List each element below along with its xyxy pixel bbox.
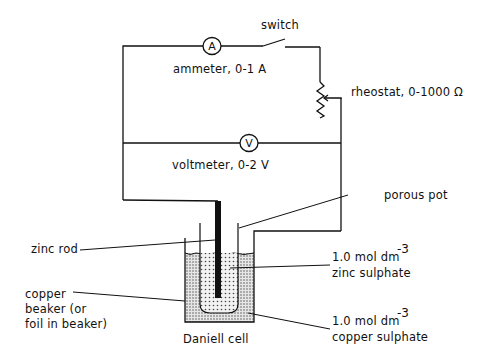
switch-label: switch <box>261 20 299 32</box>
porous-pot-label: porous pot <box>384 190 448 202</box>
copper-sulphate-exponent: -3 <box>397 307 409 319</box>
rheostat-symbol <box>317 82 341 231</box>
copper-lead-wire <box>254 231 341 251</box>
zinc-sulphate-label: zinc sulphate <box>332 268 411 280</box>
ammeter-label: ammeter, 0-1 A <box>173 64 266 76</box>
copper-beaker-label-line1: copper <box>25 289 66 301</box>
ammeter-glyph: A <box>208 40 216 53</box>
voltmeter-glyph: V <box>245 137 253 150</box>
voltmeter-label: voltmeter, 0-2 V <box>172 160 269 172</box>
daniell-cell-label: Daniell cell <box>183 334 249 346</box>
copper-beaker-label-line2: beaker (or <box>25 304 86 316</box>
copper-sulphate-label: copper sulphate <box>332 332 428 344</box>
rheostat-label: rheostat, 0-1000 Ω <box>351 87 463 99</box>
zinc-sulphate-concentration: 1.0 mol dm <box>332 252 400 264</box>
copper-beaker-label-line3: foil in beaker) <box>25 319 107 331</box>
zinc-rod <box>215 201 221 298</box>
zinc-sulphate-exponent: -3 <box>397 243 409 255</box>
copper-sulphate-concentration: 1.0 mol dm <box>332 316 400 328</box>
voltmeter-branch <box>123 135 341 152</box>
zinc-lead-wire <box>123 200 218 201</box>
zinc-rod-label: zinc rod <box>31 244 78 256</box>
switch-symbol[interactable] <box>263 39 285 46</box>
